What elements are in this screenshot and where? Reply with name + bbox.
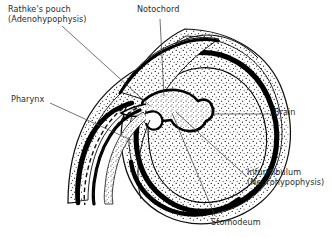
- label-stomodeum: Stomodeum: [211, 218, 261, 228]
- label-rathkes-pouch-line2: (Adenohypophysis): [8, 15, 87, 25]
- label-pharynx: Pharynx: [11, 95, 44, 105]
- label-infundibulum: Infundibulum (Neurohypophysis): [247, 168, 324, 187]
- embryo-head-sagittal-section-drawing: [0, 0, 333, 238]
- label-infundibulum-line1: Infundibulum: [247, 167, 301, 177]
- label-infundibulum-line2: (Neurohypophysis): [247, 178, 324, 188]
- figure-ink: [0, 0, 333, 238]
- label-notochord-line1: Notochord: [137, 4, 179, 14]
- label-rathkes-pouch-line1: Rathke's pouch: [8, 4, 71, 14]
- label-stomodeum-line1: Stomodeum: [211, 217, 261, 227]
- anatomical-figure: Rathke's pouch (Adenohypophysis) Notocho…: [0, 0, 333, 238]
- label-notochord: Notochord: [137, 5, 179, 15]
- label-brain: Brain: [274, 108, 295, 118]
- label-brain-line1: Brain: [274, 107, 295, 117]
- label-pharynx-line1: Pharynx: [11, 94, 44, 104]
- label-rathkes-pouch: Rathke's pouch (Adenohypophysis): [8, 5, 87, 24]
